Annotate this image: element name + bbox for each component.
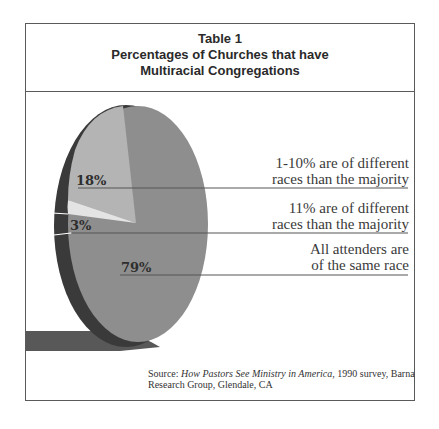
slice-label-18: 18%: [76, 173, 107, 188]
source-prefix: Source:: [148, 368, 181, 379]
legend-text: races than the majority: [272, 216, 409, 232]
legend-item-1-10: 1-10% are of different races than the ma…: [272, 155, 409, 187]
legend-text: 1-10% are of different: [272, 155, 409, 171]
legend-item-11: 11% are of different races than the majo…: [272, 200, 409, 232]
legend-item-same-race: All attenders are of the same race: [310, 241, 409, 273]
slice-label-3: 3%: [70, 218, 92, 233]
legend-text: All attenders are: [310, 241, 409, 257]
legend-text: of the same race: [310, 257, 409, 273]
legend-text: 11% are of different: [272, 200, 409, 216]
source-title: How Pastors See Ministry in America: [181, 368, 332, 379]
slice-label-79: 79%: [121, 260, 152, 275]
legend-text: races than the majority: [272, 171, 409, 187]
source-note: Source: How Pastors See Ministry in Amer…: [148, 368, 418, 390]
